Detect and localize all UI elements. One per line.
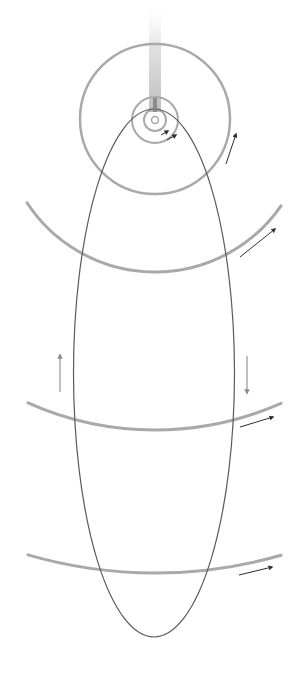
tail-glow	[149, 0, 161, 112]
comet-orbit	[74, 109, 235, 637]
sun	[152, 117, 159, 124]
orbit-arc-1	[27, 203, 281, 272]
planetary-orbits	[27, 203, 281, 573]
diagram-canvas	[0, 0, 297, 683]
comet-orbit-ellipse	[74, 109, 235, 637]
direction-arrows	[60, 131, 275, 575]
comet-tail	[149, 0, 161, 112]
arc-3-arrow-icon	[239, 567, 272, 575]
inner-orbit-arrow-1-icon	[161, 131, 168, 135]
comet-orbit-diagram	[0, 0, 297, 683]
arc-2-arrow-icon	[240, 417, 273, 427]
orbit-arc-3	[28, 555, 281, 573]
